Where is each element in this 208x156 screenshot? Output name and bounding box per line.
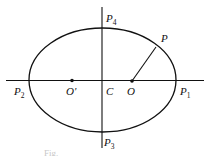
segment-o-to-p bbox=[132, 47, 156, 81]
figure-caption: Fig. bbox=[44, 148, 58, 156]
label-c: C bbox=[106, 85, 114, 97]
label-o-prime: O' bbox=[66, 85, 77, 97]
point-o-dot bbox=[130, 79, 134, 83]
ellipse-diagram: P4PP2O'COP1P3 Fig. bbox=[0, 0, 208, 156]
label-p3: P3 bbox=[103, 136, 115, 151]
label-p: P bbox=[160, 32, 168, 44]
label-p2: P2 bbox=[13, 85, 25, 100]
label-o: O bbox=[127, 85, 135, 97]
label-p1: P1 bbox=[179, 85, 191, 100]
label-p4: P4 bbox=[105, 12, 117, 27]
point-o-prime-dot bbox=[70, 79, 74, 83]
